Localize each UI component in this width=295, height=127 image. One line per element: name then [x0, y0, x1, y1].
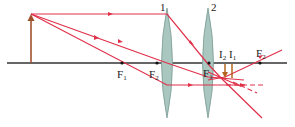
focal-label-f1-left: F1 — [117, 68, 127, 82]
lens-2-label: 2 — [211, 1, 217, 13]
rays — [31, 14, 282, 118]
lens-1-label: 1 — [160, 1, 166, 13]
image-label-i1: I1 — [229, 48, 237, 62]
focal-label-f2-right: F2 — [256, 47, 266, 61]
optics-diagram: 1 2 F1 F2 F1 F2 I2 I1 — [0, 0, 295, 127]
object-arrow — [28, 14, 35, 63]
ray-parallel — [31, 14, 262, 118]
focal-label-f2-left: F2 — [149, 68, 159, 82]
image-label-i2: I2 — [219, 48, 227, 62]
virtual-ray-extensions — [226, 82, 265, 93]
